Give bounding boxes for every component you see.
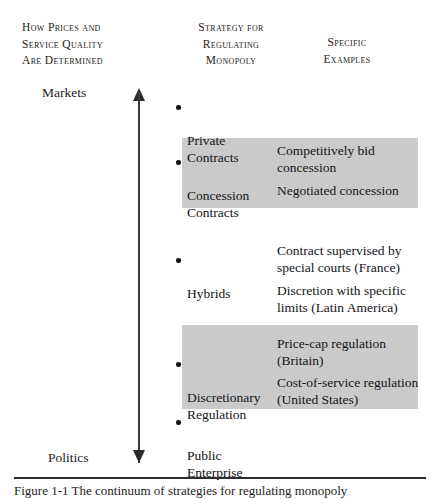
bullet-icon	[176, 160, 181, 165]
arrow-down-icon	[133, 450, 145, 463]
example-price-cap-regulation-britain: Price-cap regulation (Britain)	[277, 336, 423, 369]
bullet-icon	[176, 362, 181, 367]
column-header-strategy-for-regulating-monopoly: Strategy for Regulating Monopoly	[172, 19, 290, 69]
strategy-label: Hybrids	[187, 286, 231, 301]
strategy-item-public-enterprise: Public Enterprise	[187, 415, 283, 481]
strategy-item-discretionary-regulation: Discretionary Regulation	[187, 357, 283, 423]
example-competitively-bid-concession: Competitively bid concession	[277, 143, 423, 176]
bullet-icon	[176, 105, 181, 110]
example-discretion-specific-limits-latin-america: Discretion with specific limits (Latin A…	[277, 283, 423, 316]
axis-label-politics: Politics	[48, 450, 89, 466]
strategy-label: Public Enterprise	[187, 448, 242, 480]
example-contract-supervised-special-courts-france: Contract supervised by special courts (F…	[277, 243, 423, 276]
column-header-specific-examples: Specific Examples	[292, 34, 402, 67]
axis-line	[138, 92, 140, 463]
figure-footer-rule	[14, 477, 426, 479]
figure-caption: Figure 1-1 The continuum of strategies f…	[14, 483, 434, 499]
bullet-icon	[176, 420, 181, 425]
strategy-label: Concession Contracts	[187, 188, 249, 220]
column-header-how-prices-determined: How Prices and Service Quality Are Deter…	[22, 19, 172, 69]
example-cost-of-service-regulation-united-states: Cost-of-service regulation (United State…	[277, 375, 423, 408]
example-negotiated-concession: Negotiated concession	[277, 183, 423, 200]
axis-label-markets: Markets	[42, 85, 86, 101]
strategy-item-concession-contracts: Concession Contracts	[187, 155, 283, 221]
strategy-item-hybrids: Hybrids	[187, 253, 283, 303]
bullet-icon	[176, 258, 181, 263]
